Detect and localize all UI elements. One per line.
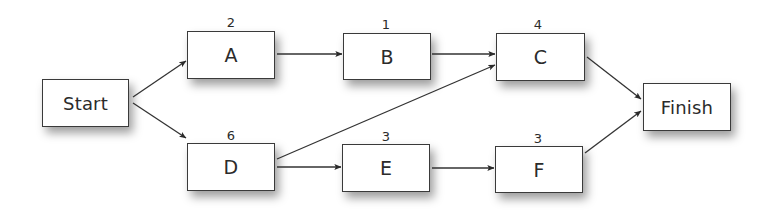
node-a-duration: 2: [211, 16, 251, 30]
edges-layer: [0, 0, 772, 216]
node-c-duration: 4: [518, 18, 558, 32]
node-e-duration: 3: [366, 130, 406, 144]
node-d-duration: 6: [211, 129, 251, 143]
edge-start-to-d: [133, 103, 186, 138]
node-f-duration: 3: [518, 132, 558, 146]
activity-network-diagram: Start 2 A 1 B 4 C 6 D 3 E 3 F Finish: [0, 0, 772, 216]
edge-c-to-finish: [587, 57, 641, 99]
edge-d-to-c: [277, 65, 495, 159]
edge-f-to-finish: [585, 111, 641, 153]
node-b-duration: 1: [366, 18, 406, 32]
edge-start-to-a: [133, 61, 186, 97]
